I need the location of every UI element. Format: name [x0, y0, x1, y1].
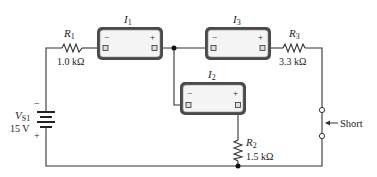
battery-value: 15 V [10, 123, 30, 134]
r2-value: 1.5 kΩ [246, 151, 273, 162]
i1-label: I1 [123, 13, 132, 27]
battery-label: VS1 [15, 109, 30, 123]
ammeter-i2: − + I2 [180, 68, 246, 115]
ammeter-i1: − + I1 [97, 13, 163, 60]
r2-label: R2 [245, 136, 257, 150]
circuit-diagram: R1 1.0 kΩ R3 3.3 kΩ R2 1.5 kΩ − + VS1 15… [0, 0, 377, 177]
junction-node-bottom [236, 164, 241, 169]
battery-plus: + [34, 130, 40, 141]
battery-vs1: − + VS1 15 V [10, 98, 55, 141]
ammeter-i3: − + I3 [205, 13, 271, 60]
r1-label: R1 [63, 27, 75, 41]
junction-node-top [172, 46, 177, 51]
i3-label: I3 [232, 13, 241, 27]
i3-plus-terminal [260, 46, 265, 51]
resistor-r1: R1 1.0 kΩ [57, 27, 84, 67]
i1-plus-terminal [152, 46, 157, 51]
r3-value: 3.3 kΩ [279, 56, 306, 67]
short-label: Short [340, 118, 363, 129]
i2-label: I2 [207, 68, 216, 82]
short-annotation: Short [319, 107, 362, 138]
r3-label: R3 [288, 27, 300, 41]
svg-text:+: + [150, 32, 155, 42]
svg-text:+: + [233, 88, 238, 98]
svg-text:−: − [104, 32, 109, 42]
svg-text:−: − [212, 32, 217, 42]
r1-value: 1.0 kΩ [57, 56, 84, 67]
svg-text:−: − [187, 88, 192, 98]
i2-plus-terminal [236, 103, 241, 108]
i1-minus-terminal [103, 46, 108, 51]
resistor-r3: R3 3.3 kΩ [279, 27, 306, 67]
svg-text:+: + [258, 32, 263, 42]
i2-minus-terminal [186, 103, 191, 108]
i3-minus-terminal [211, 46, 216, 51]
battery-minus: − [34, 98, 40, 109]
resistor-r2: R2 1.5 kΩ [234, 136, 273, 162]
